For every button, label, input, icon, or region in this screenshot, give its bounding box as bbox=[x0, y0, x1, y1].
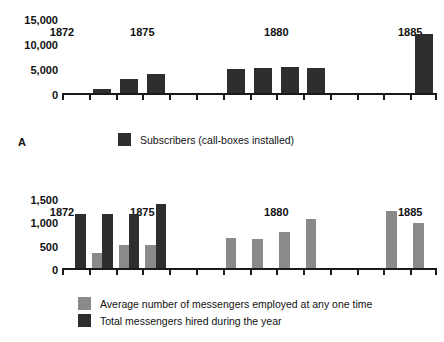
x-axis-tick bbox=[169, 269, 171, 275]
x-axis-tick bbox=[89, 269, 91, 275]
x-axis-label-1872: 1872 bbox=[50, 26, 74, 38]
bar bbox=[227, 69, 245, 93]
x-axis-tick bbox=[196, 94, 198, 100]
y-tick-label: 10,000 bbox=[24, 39, 58, 51]
y-tick-label: 0 bbox=[52, 89, 58, 101]
x-axis-tick bbox=[303, 94, 305, 100]
legend-item: Subscribers (call-boxes installed) bbox=[118, 133, 294, 146]
panel-letter-a: A bbox=[18, 136, 26, 148]
bar bbox=[145, 245, 155, 268]
x-axis-tick bbox=[223, 269, 225, 275]
legend-swatch-icon bbox=[78, 314, 91, 327]
x-axis-label-1872: 1872 bbox=[50, 206, 74, 218]
bar bbox=[279, 232, 289, 268]
bar bbox=[226, 238, 236, 268]
y-tick-label: 0 bbox=[52, 264, 58, 276]
panel-b: 05001,0001,500 1872187518801885 B Averag… bbox=[0, 185, 444, 342]
x-axis-tick bbox=[357, 269, 359, 275]
x-axis-tick bbox=[62, 269, 64, 275]
x-axis-label-1880: 1880 bbox=[264, 206, 288, 218]
x-axis-tick bbox=[62, 94, 64, 100]
x-axis-tick bbox=[276, 94, 278, 100]
y-tick-label: 15,000 bbox=[24, 14, 58, 26]
legend-swatch-icon bbox=[118, 133, 131, 146]
x-axis-tick bbox=[116, 94, 118, 100]
x-axis-tick bbox=[276, 269, 278, 275]
bar bbox=[75, 214, 85, 268]
y-tick-label: 1,500 bbox=[30, 194, 58, 206]
bar bbox=[156, 204, 166, 268]
legend-item: Total messengers hired during the year bbox=[78, 314, 372, 327]
x-axis-tick bbox=[383, 94, 385, 100]
bar bbox=[147, 74, 165, 94]
x-axis-tick bbox=[357, 94, 359, 100]
bar bbox=[281, 67, 299, 93]
bar bbox=[92, 253, 102, 268]
y-tick-label: 500 bbox=[40, 241, 58, 253]
legend-item: Average number of messengers employed at… bbox=[78, 297, 372, 310]
x-axis-tick bbox=[196, 269, 198, 275]
bar bbox=[307, 68, 325, 94]
y-tick-label: 5,000 bbox=[30, 64, 58, 76]
bar bbox=[102, 214, 112, 268]
x-axis-tick bbox=[223, 94, 225, 100]
bar bbox=[306, 219, 316, 268]
x-axis-tick bbox=[435, 94, 437, 100]
bar bbox=[93, 89, 111, 93]
bar bbox=[386, 211, 396, 268]
legend-label: Average number of messengers employed at… bbox=[100, 298, 372, 310]
legend-swatch-icon bbox=[78, 297, 91, 310]
x-axis-label-1875: 1875 bbox=[130, 26, 154, 38]
x-axis-tick bbox=[250, 269, 252, 275]
x-axis-tick bbox=[330, 269, 332, 275]
x-axis-tick bbox=[435, 269, 437, 275]
bar bbox=[119, 245, 129, 268]
legend-label: Total messengers hired during the year bbox=[100, 315, 282, 327]
x-axis-tick bbox=[89, 94, 91, 100]
bar bbox=[129, 214, 139, 268]
bar bbox=[120, 79, 138, 94]
figure-two-panel-bar-charts: 05,00010,00015,000 1872187518801885 A Su… bbox=[0, 0, 444, 342]
panel-a: 05,00010,00015,000 1872187518801885 A Su… bbox=[0, 0, 444, 170]
x-axis-tick bbox=[250, 94, 252, 100]
x-axis-tick bbox=[383, 269, 385, 275]
plot-area-panel-a: 1872187518801885 bbox=[62, 20, 437, 95]
plot-area-panel-b: 1872187518801885 bbox=[62, 200, 437, 270]
x-axis-tick bbox=[169, 94, 171, 100]
bar bbox=[415, 34, 433, 93]
x-axis-tick bbox=[410, 269, 412, 275]
legend-panel-b: Average number of messengers employed at… bbox=[78, 297, 372, 331]
x-axis-label-1880: 1880 bbox=[264, 26, 288, 38]
x-axis-tick bbox=[330, 94, 332, 100]
x-axis-tick bbox=[142, 269, 144, 275]
x-axis-tick bbox=[142, 94, 144, 100]
legend-panel-a: Subscribers (call-boxes installed) bbox=[118, 133, 294, 150]
x-axis-label-1885: 1885 bbox=[398, 206, 422, 218]
x-axis-tick bbox=[303, 269, 305, 275]
bar bbox=[254, 68, 272, 94]
legend-label: Subscribers (call-boxes installed) bbox=[140, 134, 294, 146]
bar bbox=[413, 223, 423, 268]
x-axis-tick bbox=[410, 94, 412, 100]
y-tick-label: 1,000 bbox=[30, 217, 58, 229]
bar bbox=[252, 239, 262, 268]
x-axis-tick bbox=[116, 269, 118, 275]
